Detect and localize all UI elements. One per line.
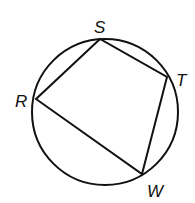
inscribed-quadrilateral-diagram: S T W R (0, 0, 195, 203)
vertex-label-w: W (147, 182, 165, 201)
vertex-label-t: T (176, 71, 188, 90)
vertex-label-s: S (94, 18, 106, 37)
vertex-label-r: R (15, 92, 27, 111)
